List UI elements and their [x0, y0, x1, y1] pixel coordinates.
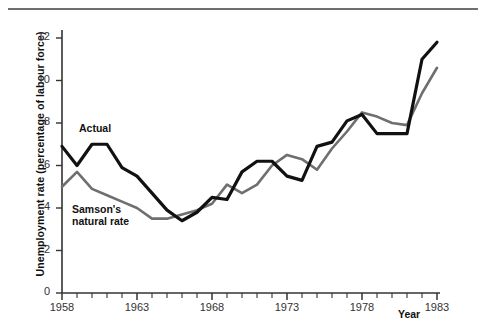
y-axis-ticks: [56, 38, 62, 293]
chart-figure: Unemployment rate (percentage of labour …: [0, 0, 486, 326]
series-annotation-natural-rate-line1: Samson's: [72, 203, 121, 215]
series-annotation-actual: Actual: [79, 122, 111, 134]
y-axis-tick-label: 6: [24, 158, 50, 170]
x-axis-tick-label: 1983: [412, 301, 462, 313]
series-annotation-actual-text: Actual: [79, 122, 111, 134]
x-axis-tick-label: 1968: [187, 301, 237, 313]
line-chart-plot: [0, 0, 486, 326]
y-axis-tick-label: 10: [24, 73, 50, 85]
x-axis-ticks: [62, 293, 437, 300]
y-axis-tick-label: 4: [24, 200, 50, 212]
series-annotation-natural-rate-line2: natural rate: [72, 215, 129, 227]
x-axis-tick-label: 1973: [262, 301, 312, 313]
data-series-group: [62, 42, 437, 221]
series-annotation-natural-rate: Samson'snatural rate: [72, 203, 129, 227]
series-line: [62, 68, 437, 219]
y-axis-tick-label: 2: [24, 243, 50, 255]
x-axis-tick-label: 1978: [337, 301, 387, 313]
x-axis-tick-label: 1963: [112, 301, 162, 313]
x-axis-tick-label: 1958: [37, 301, 87, 313]
series-line: [62, 42, 437, 221]
y-axis-tick-label: 0: [24, 285, 50, 297]
y-axis-tick-label: 8: [24, 115, 50, 127]
y-axis-tick-label: 12: [24, 30, 50, 42]
